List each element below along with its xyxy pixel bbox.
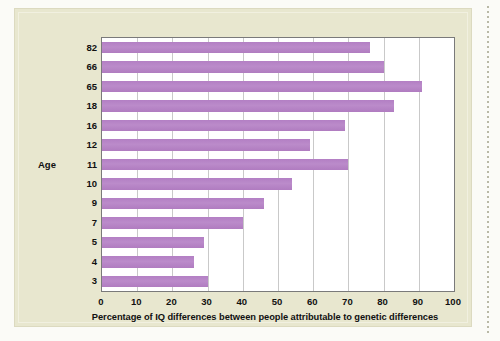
bar-age-7[interactable]: [102, 217, 243, 229]
bar-age-3[interactable]: [102, 276, 208, 288]
bar-age-4[interactable]: [102, 256, 194, 268]
gridline-90: [419, 38, 420, 291]
y-tick-label-66: 66: [57, 62, 97, 72]
y-tick-label-3: 3: [57, 276, 97, 286]
x-axis-title: Percentage of IQ differences between peo…: [15, 312, 500, 322]
x-tick-label-30: 30: [192, 296, 222, 307]
y-tick-label-18: 18: [57, 101, 97, 111]
y-tick-label-7: 7: [57, 218, 97, 228]
y-tick-label-9: 9: [57, 198, 97, 208]
y-tick-label-16: 16: [57, 121, 97, 131]
bar-age-82[interactable]: [102, 42, 370, 54]
y-tick-label-5: 5: [57, 237, 97, 247]
figure-panel: Age 826665181612111097543 01020304050607…: [14, 8, 472, 327]
y-tick-label-82: 82: [57, 43, 97, 53]
y-tick-label-10: 10: [57, 179, 97, 189]
y-tick-label-65: 65: [57, 82, 97, 92]
y-axis-tick-labels: 826665181612111097543: [53, 37, 97, 292]
x-tick-label-80: 80: [368, 296, 398, 307]
x-tick-label-60: 60: [297, 296, 327, 307]
y-tick-label-12: 12: [57, 140, 97, 150]
bar-age-66[interactable]: [102, 61, 384, 73]
x-tick-label-0: 0: [86, 296, 116, 307]
x-tick-label-40: 40: [227, 296, 257, 307]
x-tick-label-50: 50: [262, 296, 292, 307]
x-axis-tick-labels: 0102030405060708090100: [101, 296, 455, 310]
plot-area: [101, 37, 455, 292]
page-margin-dots: [487, 6, 489, 334]
x-tick-label-70: 70: [332, 296, 362, 307]
bar-age-9[interactable]: [102, 198, 264, 210]
x-tick-label-10: 10: [121, 296, 151, 307]
gridline-80: [384, 38, 385, 291]
gridline-70: [348, 38, 349, 291]
bar-age-10[interactable]: [102, 178, 292, 190]
bar-age-12[interactable]: [102, 139, 310, 151]
bar-age-16[interactable]: [102, 120, 345, 132]
bar-age-11[interactable]: [102, 159, 348, 171]
x-tick-label-20: 20: [156, 296, 186, 307]
bar-age-18[interactable]: [102, 100, 394, 112]
x-tick-label-100: 100: [438, 296, 468, 307]
y-tick-label-11: 11: [57, 160, 97, 170]
scanned-page: Age 826665181612111097543 01020304050607…: [0, 0, 500, 341]
x-tick-label-90: 90: [403, 296, 433, 307]
y-tick-label-4: 4: [57, 257, 97, 267]
bar-age-5[interactable]: [102, 237, 204, 249]
bar-age-65[interactable]: [102, 81, 422, 93]
